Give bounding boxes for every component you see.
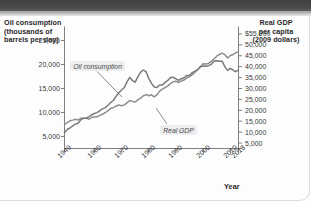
right-axis-tick-label: 50,000	[245, 41, 266, 48]
right-axis-tick-label: $55,000	[245, 30, 270, 37]
leader-line-gdp	[156, 108, 167, 124]
right-axis-tick-label: 15,000	[245, 118, 266, 125]
right-axis-tick-label: 5,000	[245, 140, 263, 147]
plot-area: 25,00020,00015,00010,0005,000$55,00050,0…	[0, 0, 311, 202]
right-axis-tick-label: 20,000	[245, 107, 266, 114]
series-annotation-oil-consumption: Oil consumption	[70, 61, 125, 71]
left-axis-tick-label: 5,000	[14, 133, 60, 140]
left-axis-tick-label: 10,000	[14, 109, 60, 116]
left-axis-tick-label: 15,000	[14, 85, 60, 92]
right-axis-tick-label: 30,000	[245, 85, 266, 92]
right-axis-tick-label: 45,000	[245, 52, 266, 59]
left-axis-tick-label: 25,000	[14, 37, 60, 44]
series-annotation-real-gdp: Real GDP	[160, 125, 197, 135]
right-axis-tick-label: 40,000	[245, 63, 266, 70]
leader-line-oil	[97, 72, 122, 98]
x-axis-title: Year	[224, 182, 240, 191]
right-axis-tick-label: 35,000	[245, 74, 266, 81]
series-line-oil-consumption	[65, 61, 239, 133]
figure-container: Oil consumption(thousands ofbarrels per …	[0, 0, 311, 202]
right-axis-tick-label: 10,000	[245, 129, 266, 136]
right-axis-tick-label: 25,000	[245, 96, 266, 103]
left-axis-tick-label: 20,000	[14, 61, 60, 68]
